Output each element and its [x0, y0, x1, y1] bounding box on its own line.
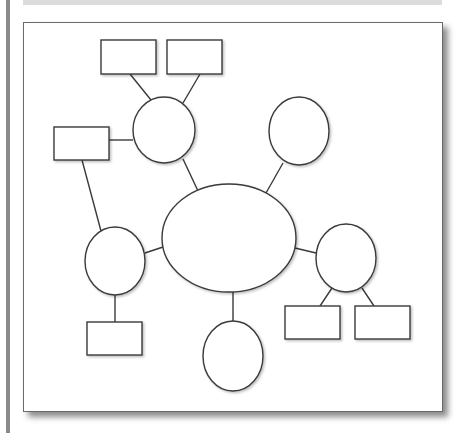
connector-line — [295, 248, 316, 253]
circle-right — [316, 224, 376, 292]
connector-line — [320, 288, 332, 306]
circle-left — [85, 227, 145, 295]
diagram-canvas — [0, 0, 468, 433]
box-bottom-left — [87, 322, 142, 355]
connector-line — [145, 247, 163, 253]
circle-bottom — [203, 321, 263, 391]
connector-line — [183, 159, 198, 191]
connector-line — [362, 288, 374, 306]
box-bottom-right-1 — [285, 306, 340, 339]
connector-line — [130, 74, 151, 100]
circle-top-left — [133, 97, 195, 163]
box-left — [54, 127, 109, 160]
box-top-2 — [167, 40, 222, 74]
circle-top-right — [269, 97, 329, 165]
box-bottom-right-2 — [355, 306, 410, 339]
connector-line — [183, 74, 200, 103]
box-top-1 — [101, 40, 156, 74]
connector-line — [266, 163, 283, 193]
center — [162, 184, 296, 292]
bubble-map-diagram — [0, 0, 468, 433]
connector-line — [82, 160, 101, 231]
